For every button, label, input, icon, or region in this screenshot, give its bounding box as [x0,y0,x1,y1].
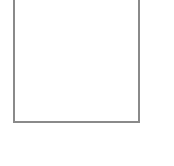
empty-panel [13,0,140,123]
